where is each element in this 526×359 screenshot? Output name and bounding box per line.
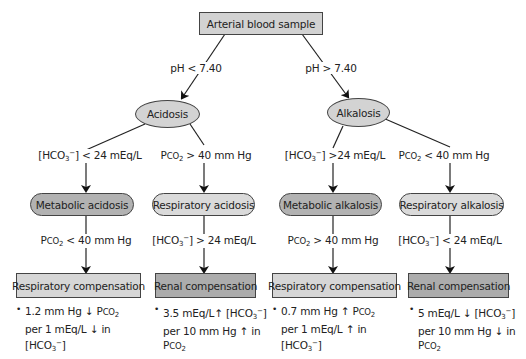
condition-pco2-low: PCO2 < 40 mm Hg [398, 149, 491, 163]
comp-condition-2: [HCO3−] > 24 mEq/L [151, 234, 257, 248]
respiratory-compensation-node: Respiratory compensation [272, 273, 397, 298]
compensation-note-2: • 3.5 mEq/L↑ [HCO3−] per 10 mm Hg ↑ in P… [163, 304, 267, 356]
comp-condition-4: [HCO3−] < 24 mEq/L [397, 234, 503, 248]
acidosis-node: Acidosis [135, 100, 200, 128]
root-label: Arterial blood sample [207, 18, 315, 30]
compensation-note-4: • 5 mEq/L ↓ [HCO3−] per 10 mm Hg ↓ in PC… [418, 304, 516, 356]
metabolic-acidosis-node: Metabolic acidosis [30, 193, 134, 216]
alkalosis-node: Alkalosis [327, 98, 390, 127]
condition-ph-low: pH < 7.40 [169, 62, 223, 74]
condition-ph-high: pH > 7.40 [304, 62, 358, 74]
renal-compensation-node: Renal compensation [155, 273, 256, 298]
compensation-note-1: • 1.2 mm Hg ↓ PCO2 per 1 mEq/L ↓ in [HCO… [25, 304, 119, 356]
respiratory-acidosis-node: Respiratory acidosis [152, 193, 255, 216]
condition-bicarb-high: [HCO3−] >24 mEq/L [284, 149, 386, 163]
condition-bicarb-low: [HCO3−] < 24 mEq/L [37, 149, 143, 163]
compensation-note-3: • 0.7 mm Hg ↑ PCO2 per 1 mEq/L ↑ in [HCO… [281, 304, 375, 356]
respiratory-alkalosis-node: Respiratory alkalosis [399, 193, 504, 216]
comp-condition-3: PCO2 > 40 mm Hg [287, 234, 380, 248]
condition-pco2-high: PCO2 > 40 mm Hg [160, 149, 253, 163]
alkalosis-label: Alkalosis [337, 107, 381, 119]
acidosis-label: Acidosis [147, 108, 188, 120]
comp-condition-1: PCO2 < 40 mm Hg [40, 234, 133, 248]
root-node: Arterial blood sample [199, 12, 323, 35]
metabolic-alkalosis-node: Metabolic alkalosis [279, 193, 382, 216]
respiratory-compensation-node: Respiratory compensation [16, 273, 141, 298]
renal-compensation-node: Renal compensation [408, 273, 509, 298]
